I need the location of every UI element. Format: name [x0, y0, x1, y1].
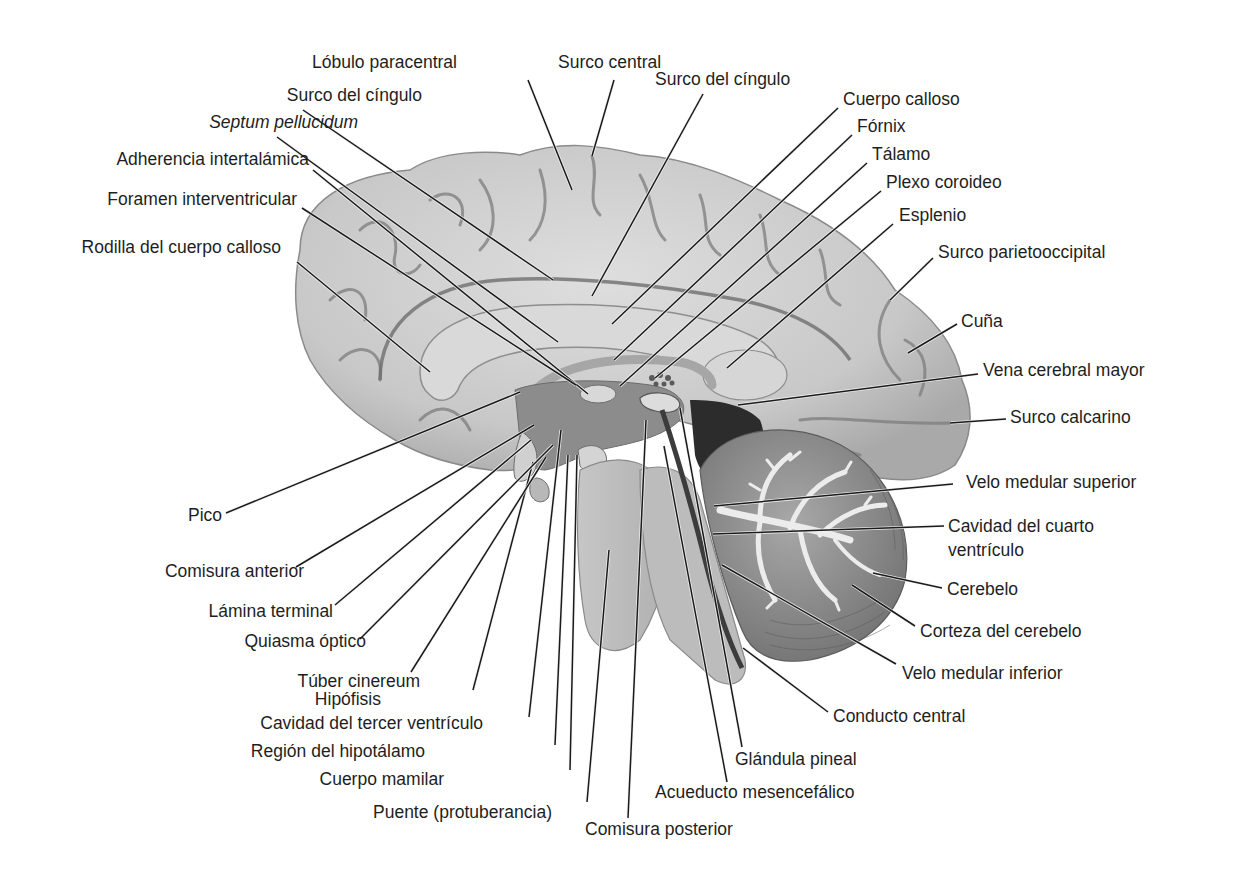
- label-fornix: Fórnix: [857, 116, 906, 136]
- leader-line-cuerpo-mamilar: [570, 455, 577, 770]
- label-talamo: Tálamo: [872, 144, 930, 164]
- leader-line-tuber-cinereum: [411, 457, 546, 672]
- label-tuber-cinereum: Túber cinereum: [297, 671, 420, 691]
- label-lobulo-paracentral: Lóbulo paracentral: [312, 52, 457, 72]
- label-conducto-central: Conducto central: [833, 706, 965, 726]
- label-vena-cerebral-mayor: Vena cerebral mayor: [983, 360, 1145, 380]
- label-cavidad-cuarto-ventriculo-2: ventrículo: [948, 540, 1024, 560]
- label-cavidad-tercer-ventriculo: Cavidad del tercer ventrículo: [260, 713, 483, 733]
- label-puente: Puente (protuberancia): [373, 802, 552, 822]
- label-cuerpo-calloso: Cuerpo calloso: [843, 89, 960, 109]
- label-acueducto-mesencefalico: Acueducto mesencefálico: [655, 782, 854, 802]
- label-quiasma-optico: Quiasma óptico: [244, 631, 366, 651]
- label-cavidad-cuarto-ventriculo-1: Cavidad del cuarto: [948, 516, 1094, 536]
- label-esplenio: Esplenio: [899, 205, 966, 225]
- leader-line-region-hipotalamo: [555, 455, 568, 745]
- label-surco-del-cingulo-right: Surco del cíngulo: [655, 69, 790, 89]
- label-region-hipotalamo: Región del hipotálamo: [251, 741, 425, 761]
- label-surco-central-1: Surco central: [558, 52, 661, 72]
- label-comisura-anterior: Comisura anterior: [165, 561, 304, 581]
- label-pico: Pico: [188, 505, 222, 525]
- label-septum-pellucidum: Septum pellucidum: [209, 112, 358, 132]
- label-adherencia-intertalamica: Adherencia intertalámica: [116, 149, 309, 169]
- interthalamic-adhesion: [580, 385, 616, 403]
- brain-diagram: Lóbulo paracentralSurco centralSurco del…: [0, 0, 1239, 895]
- label-surco-calcarino: Surco calcarino: [1010, 407, 1131, 427]
- label-corteza-cerebelo: Corteza del cerebelo: [920, 621, 1081, 641]
- label-velo-medular-inferior: Velo medular inferior: [902, 663, 1063, 683]
- label-hipofisis: Hipófisis: [315, 689, 381, 709]
- hypophysis: [530, 478, 549, 502]
- label-surco-del-cingulo-left: Surco del cíngulo: [287, 85, 422, 105]
- label-plexo-coroideo: Plexo coroideo: [886, 172, 1002, 192]
- label-glandula-pineal: Glándula pineal: [735, 749, 857, 769]
- leader-line-surco-central-1: [592, 80, 614, 156]
- label-foramen-interventricular: Foramen interventricular: [107, 189, 297, 209]
- label-cerebelo: Cerebelo: [947, 579, 1018, 599]
- leader-line-surco-parietooccipital: [890, 258, 933, 300]
- leader-line-quiasma-optico: [360, 445, 553, 639]
- label-comisura-posterior: Comisura posterior: [585, 819, 733, 839]
- label-cuna: Cuña: [961, 311, 1003, 331]
- label-lamina-terminal: Lámina terminal: [209, 601, 334, 621]
- label-surco-parietooccipital: Surco parietooccipital: [938, 242, 1105, 262]
- label-cuerpo-mamilar: Cuerpo mamilar: [320, 769, 445, 789]
- label-rodilla-cuerpo-calloso: Rodilla del cuerpo calloso: [82, 237, 281, 257]
- label-velo-medular-superior: Velo medular superior: [966, 472, 1136, 492]
- splenium: [703, 350, 787, 400]
